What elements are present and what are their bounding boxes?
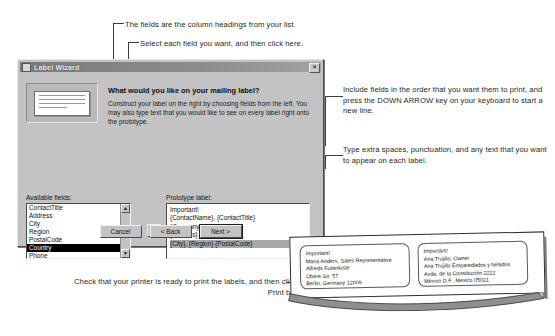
preview-line [39, 95, 85, 96]
available-field-item[interactable]: Address [27, 212, 130, 220]
dialog-title: Label Wizard [34, 64, 80, 71]
dialog-titlebar[interactable]: Label Wizard ✕ [20, 62, 321, 72]
callout-select-note: Select each field you want, and then cli… [140, 39, 303, 50]
preview-line [39, 107, 67, 108]
back-button[interactable]: < Back [150, 225, 192, 238]
preview-line [39, 103, 85, 104]
label-wizard-dialog: Label Wizard ✕ What would you like on yo… [17, 59, 324, 247]
prototype-label-line[interactable]: {City}, {Region} {PostalCode} [170, 240, 306, 248]
cancel-button[interactable]: Cancel [100, 225, 142, 238]
sample-label: Important!Maria Anders, Sales Representa… [299, 243, 410, 289]
dialog-button-row: Cancel < Back Next > [20, 225, 321, 238]
leader-line-include-vertical [325, 96, 326, 145]
dialog-heading: What would you like on your mailing labe… [108, 86, 313, 95]
callout-fields-note: The fields are the column headings from … [125, 20, 296, 31]
screenshot-canvas: The fields are the column headings from … [0, 0, 555, 336]
callout-print-note: Check that your printer is ready to prin… [60, 277, 310, 298]
sample-label-line: Berlin, Germany 12009 [306, 279, 404, 289]
close-icon[interactable]: ✕ [309, 63, 320, 73]
prototype-label-label: Prototype label: [166, 194, 212, 201]
scroll-up-icon[interactable]: ▲ [121, 204, 130, 213]
dialog-intro-text: Construct your label on the right by cho… [108, 99, 313, 126]
available-fields-label: Available fields: [26, 194, 72, 201]
next-button[interactable]: Next > [200, 225, 242, 238]
leader-line-type-vertical [325, 155, 326, 168]
sample-label: Important!Ana Trujillo, OwnerAna Trujill… [417, 241, 528, 287]
printed-label-sheet: Important!Maria Anders, Sales Representa… [289, 231, 548, 310]
window-icon [22, 63, 31, 72]
sample-label-line: México D.F., Mexico 05021 [424, 276, 522, 286]
callout-include-note: Include fields in the order that you wan… [343, 85, 548, 117]
sample-label-lines: Important!Ana Trujillo, OwnerAna Trujill… [424, 246, 523, 286]
available-field-item[interactable]: Phone [27, 252, 130, 259]
prototype-label-line[interactable]: Important! [170, 206, 306, 214]
dialog-body: What would you like on your mailing labe… [20, 74, 321, 244]
sheet-curl-edge [286, 286, 548, 313]
preview-line [39, 99, 85, 100]
label-preview-image [26, 83, 98, 123]
available-field-item[interactable]: ContactTitle [27, 204, 130, 212]
leader-line-select-horizontal [128, 42, 139, 43]
prototype-label-line[interactable]: {ContactName}, {ContactTitle} [170, 214, 306, 222]
leader-line-fields-horizontal [113, 23, 124, 24]
leader-line-type-horizontal [325, 155, 343, 156]
leader-line-include-horizontal [325, 96, 343, 97]
preview-sheet [34, 91, 90, 116]
available-field-item[interactable]: Country [27, 244, 130, 252]
sample-label-lines: Important!Maria Anders, Sales Representa… [306, 248, 405, 288]
callout-type-note: Type extra spaces, punctuation, and any … [343, 145, 548, 166]
scroll-down-icon[interactable]: ▼ [121, 249, 130, 258]
